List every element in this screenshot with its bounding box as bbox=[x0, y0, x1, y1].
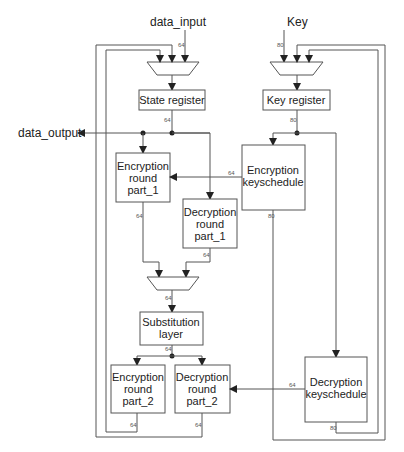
to-dec-round1-wire bbox=[172, 133, 210, 199]
dec-round-2-label: part_2 bbox=[186, 395, 217, 407]
data-input-mux bbox=[147, 62, 199, 75]
state-register-label: State register bbox=[139, 94, 205, 106]
bus-width-label: 64 bbox=[289, 382, 296, 388]
enc-r1-out-wire bbox=[143, 202, 159, 277]
data-output-label: data_output bbox=[18, 126, 82, 140]
bus-width-label: 64 bbox=[164, 117, 171, 123]
bus-width-label: 80 bbox=[277, 42, 284, 48]
substitution-label: Substitution bbox=[142, 316, 199, 328]
bus-width-label: 64 bbox=[195, 422, 202, 428]
to-enc-ks-wire bbox=[273, 133, 297, 145]
bus-width-label: 80 bbox=[290, 117, 297, 123]
enc-keyschedule-label: keyschedule bbox=[242, 176, 303, 188]
bus-width-label: 64 bbox=[203, 252, 210, 258]
bus-width-label: 80 bbox=[268, 213, 275, 219]
to-dec-round2-wire bbox=[172, 356, 202, 365]
bus-width-label: 64 bbox=[178, 42, 185, 48]
bus-width-label: 80 bbox=[330, 425, 337, 431]
dec-keyschedule-label: keyschedule bbox=[305, 388, 366, 400]
round-select-mux bbox=[147, 277, 199, 290]
bus-width-label: 64 bbox=[228, 170, 235, 176]
dec-round-1-label: Decryption bbox=[184, 206, 237, 218]
enc-round-1-label: round bbox=[129, 172, 157, 184]
key-register-label: Key register bbox=[267, 94, 326, 106]
bus-width-label: 64 bbox=[165, 295, 172, 301]
bus-width-label: 64 bbox=[165, 346, 172, 352]
enc-round-2-label: round bbox=[124, 383, 152, 395]
dec-round-1-label: round bbox=[196, 218, 224, 230]
enc-keyschedule-label: Encryption bbox=[247, 164, 299, 176]
key-input-label: Key bbox=[287, 15, 308, 29]
enc-round-2-label: Encryption bbox=[112, 371, 164, 383]
enc-round-1-label: Encryption bbox=[117, 160, 169, 172]
key-input-mux bbox=[270, 62, 323, 75]
dec-round-2-label: Decryption bbox=[176, 371, 229, 383]
substitution-label: layer bbox=[159, 328, 183, 340]
dec-keyschedule-label: Decryption bbox=[310, 376, 363, 388]
to-enc-round2-wire bbox=[137, 356, 172, 365]
dec-round-2-label: round bbox=[188, 383, 216, 395]
enc-round-1-label: part_1 bbox=[127, 184, 158, 196]
bus-width-label: 64 bbox=[130, 422, 137, 428]
bus-width-label: 64 bbox=[136, 213, 143, 219]
block-diagram: data_input Key data_output 64 80 State r… bbox=[0, 0, 404, 452]
enc-round-2-label: part_2 bbox=[122, 395, 153, 407]
dec-round-1-label: part_1 bbox=[194, 230, 225, 242]
data-input-label: data_input bbox=[150, 15, 207, 29]
